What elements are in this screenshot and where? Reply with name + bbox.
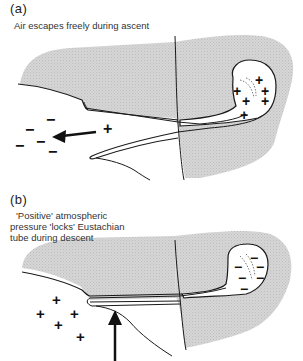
plus-sign: +: [240, 107, 248, 123]
minus-sign: −: [15, 137, 24, 154]
plus-sign: +: [54, 316, 63, 333]
panel-b-caption-line2: pressure 'locks' Eustachian: [10, 221, 125, 232]
arrow-up-icon: [108, 310, 122, 325]
plus-sign: +: [103, 120, 112, 137]
plus-sign: +: [261, 93, 269, 109]
panel-a-caption: Air escapes freely during ascent: [14, 20, 149, 31]
panel-b-caption-line1: 'Positive' atmospheric: [16, 210, 107, 221]
minus-sign: −: [36, 133, 45, 150]
panel-b-outside-signs: + + + + +: [36, 291, 85, 345]
minus-sign: −: [25, 121, 34, 138]
panel-a-right-tissue: [175, 35, 293, 178]
eustachian-tube-diagram: − − − − − + + + + + + +: [0, 0, 303, 361]
plus-sign: +: [233, 83, 241, 99]
panel-a-label: (a): [10, 1, 27, 16]
panel-a-anatomy: [18, 35, 293, 180]
minus-sign: −: [240, 281, 248, 297]
panel-b-upper-tissue: [22, 236, 176, 300]
plus-sign: +: [70, 305, 79, 322]
plus-sign: +: [52, 291, 61, 308]
panel-a-upper-tissue: [20, 42, 175, 118]
minus-sign: −: [48, 143, 57, 160]
arrow-left-icon: [52, 130, 66, 143]
plus-sign: +: [76, 328, 85, 345]
minus-sign: −: [46, 111, 55, 128]
panel-b-caption-line3: tube during descent: [10, 232, 93, 243]
panel-a-arrow: [62, 132, 96, 136]
minus-sign: −: [256, 270, 264, 286]
panel-b-label: (b): [10, 192, 27, 207]
plus-sign: +: [36, 305, 45, 322]
